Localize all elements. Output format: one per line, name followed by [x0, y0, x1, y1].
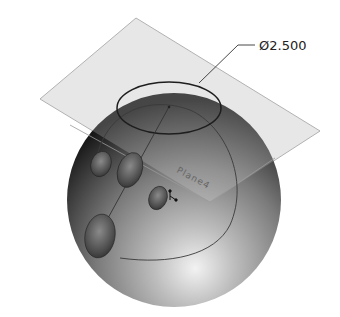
axis-point-top: [168, 106, 171, 109]
model-viewport[interactable]: Plane4 Ø2.500: [0, 0, 340, 317]
diameter-dimension[interactable]: Ø2.500: [259, 38, 306, 53]
